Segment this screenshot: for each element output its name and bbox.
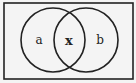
venn-diagram-svg: a x b bbox=[0, 0, 136, 83]
region-label-x: x bbox=[65, 33, 73, 48]
venn-diagram: a x b bbox=[0, 0, 136, 83]
region-label-b: b bbox=[96, 33, 104, 47]
right-set-circle bbox=[54, 8, 118, 72]
left-set-circle bbox=[21, 8, 85, 72]
region-label-a: a bbox=[35, 33, 42, 47]
